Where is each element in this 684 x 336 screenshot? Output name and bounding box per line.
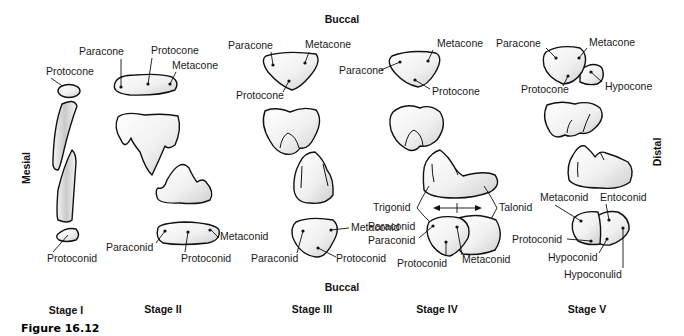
label-metacone: Metacone — [305, 38, 351, 50]
label-metacone: Metacone — [172, 59, 218, 71]
label-metaconid: Metaconid — [462, 253, 511, 265]
label-paracone: Paracone — [79, 45, 124, 57]
label-protocone: Protocone — [236, 89, 284, 101]
stage-3-title: Stage III — [292, 303, 332, 315]
label-metacone: Metacone — [437, 37, 483, 49]
stage-4-group: Paracone Metacone Protocone Trigonid Tal… — [339, 37, 532, 269]
tooth-evolution-diagram: Buccal Buccal Mesial Distal Protocone Pr… — [0, 0, 684, 336]
orientation-right-distal: Distal — [651, 138, 663, 167]
stage-5-group: Paracone Metacone Protocone Hypocone Met… — [496, 36, 652, 280]
label-metacone: Metacone — [589, 36, 635, 48]
label-protoconid: Protoconid — [336, 252, 386, 264]
stage-1-title: Stage I — [49, 304, 84, 316]
label-protocone: Protocone — [432, 85, 480, 97]
label-metaconid: Metaconid — [220, 230, 269, 242]
label-protocone: Protocone — [521, 83, 569, 95]
upper-crown-occlusal — [114, 74, 177, 95]
upper-crown-occlusal — [58, 85, 80, 98]
label-paracone: Paracone — [496, 37, 541, 49]
label-protoconid: Protoconid — [512, 233, 562, 245]
upper-molar-side-view — [116, 113, 179, 175]
label-hypoconid: Hypoconid — [548, 251, 598, 263]
label-paraconid: Paraconid — [368, 234, 415, 246]
upper-molar-side-view — [390, 106, 443, 151]
label-entoconid: Entoconid — [600, 191, 647, 203]
lower-molar-side-view — [156, 164, 212, 203]
label-metaconid: Metaconid — [540, 191, 589, 203]
orientation-top-buccal: Buccal — [325, 13, 360, 25]
label-paraconid: Paraconid — [106, 241, 153, 253]
label-paraconid-upper: Paraconid — [368, 220, 415, 232]
label-hypoconulid: Hypoconulid — [564, 268, 622, 280]
lower-molar-side-view — [423, 150, 497, 198]
label-paracone: Paracone — [228, 39, 273, 51]
label-protocone: Protocone — [151, 44, 199, 56]
label-protoconid: Protoconid — [181, 252, 231, 264]
lower-crown-occlusal — [292, 218, 337, 257]
label-paracone: Paracone — [339, 64, 384, 76]
upper-molar-side-view — [545, 102, 603, 137]
label-protocone: Protocone — [46, 65, 94, 77]
stage-2-title: Stage II — [144, 303, 181, 315]
label-protoconid: Protoconid — [47, 252, 97, 264]
stage-5-title: Stage V — [568, 303, 607, 315]
upper-molar-side-view — [263, 108, 319, 154]
label-protoconid: Protoconid — [397, 257, 447, 269]
lower-molar-side-view — [294, 152, 333, 203]
label-talonid: Talonid — [499, 201, 532, 213]
label-paraconid: Paraconid — [251, 252, 298, 264]
orientation-bottom-buccal: Buccal — [325, 281, 360, 293]
stage-2-group: Paracone Protocone Metacone Metaconid Pa… — [79, 44, 269, 264]
orientation-left-mesial: Mesial — [20, 152, 32, 184]
label-trigonid: Trigonid — [373, 201, 411, 213]
label-hypocone: Hypocone — [605, 80, 652, 92]
figure-caption: Figure 16.12 — [21, 322, 100, 335]
stage-4-title: Stage IV — [416, 303, 457, 315]
upper-crown-occlusal — [389, 52, 439, 87]
stage-1-group: Protocone Protoconid — [46, 65, 97, 264]
